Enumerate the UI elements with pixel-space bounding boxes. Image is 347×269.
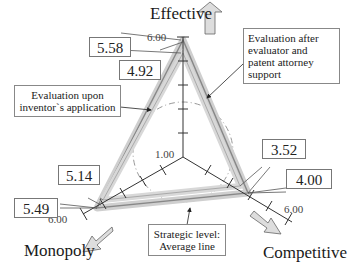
- value-inventor-competitive: 3.52: [262, 139, 306, 159]
- note-inventor-application: Evaluation upon inventor`s application: [14, 85, 121, 117]
- axis-title-monopoly: Monopoly: [24, 241, 95, 261]
- value-inventor-effective: 4.92: [119, 60, 161, 80]
- axis-title-competitive: Competitive: [263, 243, 347, 263]
- value-after-competitive: 4.00: [286, 169, 332, 189]
- note-strategic-level: Strategic level: Average line: [148, 224, 226, 256]
- tick-label-center: 1.00: [155, 148, 174, 160]
- value-after-monopoly: 5.49: [14, 198, 58, 218]
- competitive-arrow-icon: [250, 211, 281, 234]
- note-after-support: Evaluation after evaluator and patent at…: [243, 28, 340, 84]
- value-inventor-monopoly: 5.14: [58, 165, 100, 185]
- value-after-effective: 5.58: [89, 37, 131, 57]
- tick-label-competitive-max: 6.00: [284, 203, 303, 215]
- axis-title-effective: Effective: [150, 4, 212, 24]
- tick-label-effective-max: 6.00: [147, 31, 166, 43]
